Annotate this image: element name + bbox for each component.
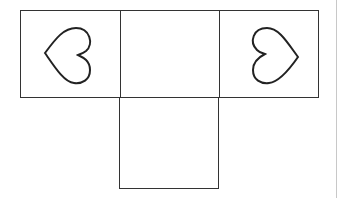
- heart-left-icon: [42, 24, 102, 86]
- cell-bottom-middle: [119, 97, 219, 189]
- heart-right-icon: [239, 24, 301, 86]
- page-edge-line: [336, 0, 337, 198]
- cell-top-middle: [120, 10, 220, 98]
